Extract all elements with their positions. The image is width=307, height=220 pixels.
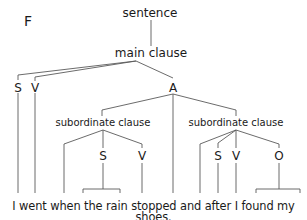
node-sub2-verb: V <box>232 150 240 162</box>
node-subordinate-clause-1: subordinate clause <box>56 118 151 128</box>
node-sentence: sentence <box>123 7 178 19</box>
node-main-clause: main clause <box>115 47 187 59</box>
node-main-verb: V <box>31 82 39 94</box>
node-main-subject: S <box>14 82 22 94</box>
node-adverbial: A <box>169 82 177 94</box>
node-sub1-verb: V <box>138 150 146 162</box>
node-sub1-subject: S <box>99 150 107 162</box>
example-sentence: I went when the rain stopped and after I… <box>0 201 307 220</box>
tree-edges <box>0 0 307 220</box>
node-sub2-object: O <box>274 150 283 162</box>
node-subordinate-clause-2: subordinate clause <box>189 118 284 128</box>
node-sub2-subject: S <box>214 150 222 162</box>
panel-label: F <box>24 14 32 28</box>
